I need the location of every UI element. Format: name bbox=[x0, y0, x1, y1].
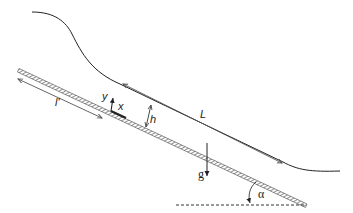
angle-label: α bbox=[258, 187, 265, 201]
gravity-label: g bbox=[198, 167, 204, 181]
y-axis-arrow bbox=[111, 98, 113, 111]
y-axis-label: y bbox=[101, 90, 109, 102]
l-prime-arrow bbox=[18, 79, 102, 118]
angle-arc bbox=[249, 182, 256, 203]
l-prime-label: l' bbox=[55, 96, 60, 108]
x-axis-label: x bbox=[117, 100, 124, 112]
h-label: h bbox=[150, 113, 156, 125]
L-label: L bbox=[200, 108, 206, 120]
inclined-film-diagram: l' L y x h g α bbox=[0, 0, 353, 213]
